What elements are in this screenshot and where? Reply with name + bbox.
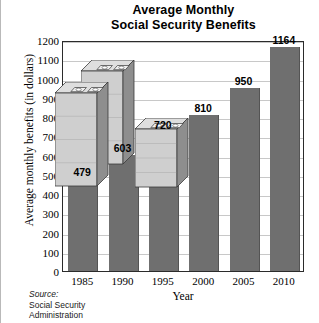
y-axis-tick-label: 900 xyxy=(25,93,59,105)
x-axis-tick-label: 2000 xyxy=(192,275,214,287)
source-line-2: Administration xyxy=(29,310,85,321)
y-axis-tick-label: 200 xyxy=(25,228,59,240)
gridline xyxy=(63,235,303,236)
source-label: Source: xyxy=(29,289,85,300)
y-axis-tick-label: 300 xyxy=(25,208,59,220)
x-axis-tick-label: 2005 xyxy=(233,275,255,287)
x-axis-tick-label: 2010 xyxy=(273,275,295,287)
y-axis-tick-label: 0 xyxy=(25,266,59,278)
y-axis-tick-label: 800 xyxy=(25,112,59,124)
x-axis-title: Year xyxy=(62,290,304,302)
x-axis-tick-label: 1990 xyxy=(112,275,134,287)
x-axis-tick-label: 1985 xyxy=(71,275,93,287)
gridline xyxy=(63,215,303,216)
bar xyxy=(270,47,300,271)
y-axis-tick-label: 1200 xyxy=(25,35,59,47)
y-axis-tick-label: 1000 xyxy=(25,74,59,86)
source-note: Source: Social Security Administration xyxy=(29,289,85,321)
chart-title-line-1: Average Monthly xyxy=(62,3,305,18)
source-line-1: Social Security xyxy=(29,300,85,311)
bar-value-label: 720 xyxy=(154,119,172,131)
chart-title-line-2: Social Security Benefits xyxy=(62,18,305,33)
bar xyxy=(109,155,139,271)
bar xyxy=(230,88,260,271)
bar-value-label: 1164 xyxy=(272,34,295,46)
y-axis-tick-label: 400 xyxy=(25,189,59,201)
y-axis-tick-label: 100 xyxy=(25,247,59,259)
chart-page: Average Monthly Social Security Benefits… xyxy=(0,0,319,323)
plot-inner xyxy=(63,42,303,271)
bar-value-label: 479 xyxy=(73,166,91,178)
plot-area xyxy=(62,41,304,272)
chart-title: Average Monthly Social Security Benefits xyxy=(62,3,305,33)
bar-value-label: 603 xyxy=(114,142,132,154)
bar xyxy=(189,115,219,271)
gridline xyxy=(63,254,303,255)
y-axis-tick-label: 700 xyxy=(25,131,59,143)
gridline xyxy=(63,42,303,43)
bar-value-label: 810 xyxy=(194,102,212,114)
y-axis-tick-labels: 0100200300400500600700800900100011001200 xyxy=(22,41,59,272)
bar xyxy=(68,179,98,271)
gridline xyxy=(63,196,303,197)
y-axis-tick-label: 600 xyxy=(25,151,59,163)
y-axis-tick-label: 500 xyxy=(25,170,59,182)
x-axis-tick-label: 1995 xyxy=(152,275,174,287)
y-axis-tick-label: 1100 xyxy=(25,54,59,66)
bar-value-label: 950 xyxy=(235,75,253,87)
